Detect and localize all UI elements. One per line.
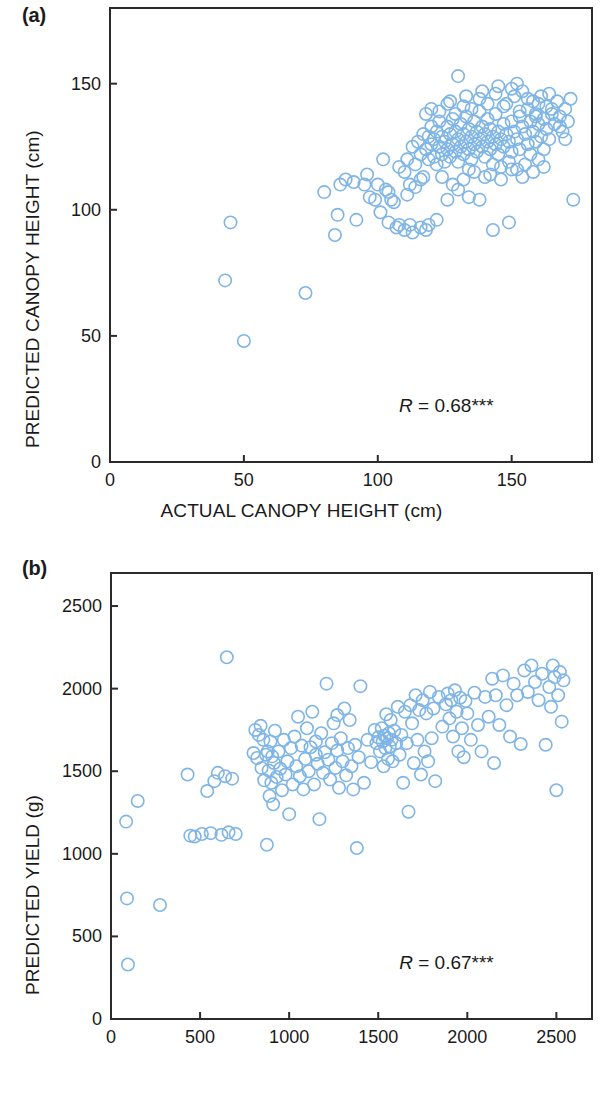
scatter-point [230, 828, 242, 840]
scatter-point [393, 749, 405, 761]
scatter-point [331, 709, 343, 721]
scatter-point [411, 734, 423, 746]
scatter-point [545, 701, 557, 713]
scatter-point [429, 775, 441, 787]
scatter-point [354, 680, 366, 692]
scatter-point [329, 229, 341, 241]
scatter-point [556, 715, 568, 727]
panel-a-y-axis-title: PREDICTED CANOPY HEIGHT (cm) [22, 130, 44, 448]
scatter-point [219, 770, 231, 782]
y-tick-label: 500 [72, 926, 102, 947]
scatter-point [436, 171, 448, 183]
scatter-point [263, 790, 275, 802]
scatter-point [559, 133, 571, 145]
scatter-point [487, 224, 499, 236]
scatter-point [482, 711, 494, 723]
scatter-series [120, 651, 570, 971]
panel-a-correlation-annotation: R = 0.68*** [399, 395, 494, 417]
scatter-point [344, 714, 356, 726]
scatter-point [472, 719, 484, 731]
scatter-point [441, 193, 453, 205]
scatter-point [212, 767, 224, 779]
scatter-point [444, 95, 456, 107]
scatter-point [365, 756, 377, 768]
scatter-point [539, 739, 551, 751]
scatter-point [352, 751, 364, 763]
scatter-point [465, 734, 477, 746]
x-tick-label: 500 [185, 1027, 215, 1048]
x-tick-label: 0 [106, 1027, 116, 1048]
scatter-point [331, 209, 343, 221]
scatter-point [299, 287, 311, 299]
scatter-point [340, 769, 352, 781]
y-tick-label: 0 [92, 1009, 102, 1030]
scatter-point [425, 103, 437, 115]
scatter-point [306, 706, 318, 718]
scatter-point [385, 193, 397, 205]
scatter-point [456, 722, 468, 734]
x-tick-label: 100 [363, 470, 393, 491]
scatter-point [493, 719, 505, 731]
scatter-point [120, 815, 132, 827]
scatter-point [497, 100, 509, 112]
scatter-point [567, 193, 579, 205]
correlation-symbol: R [399, 952, 413, 973]
scatter-point [317, 767, 329, 779]
scatter-point [497, 669, 509, 681]
scatter-point [554, 666, 566, 678]
panel-b-correlation-annotation: R = 0.67*** [399, 952, 494, 974]
scatter-point [503, 216, 515, 228]
scatter-point [408, 757, 420, 769]
panel-a: (a) ACTUAL CANOPY HEIGHT (cm) PREDICTED … [0, 0, 603, 547]
scatter-point [425, 732, 437, 744]
scatter-point [397, 777, 409, 789]
scatter-point [350, 214, 362, 226]
scatter-point [536, 668, 548, 680]
scatter-point [415, 768, 427, 780]
y-tick-label: 2500 [62, 596, 102, 617]
scatter-point [255, 762, 267, 774]
scatter-point [552, 689, 564, 701]
scatter-point [334, 178, 346, 190]
scatter-point [452, 70, 464, 82]
plot-frame [110, 8, 592, 462]
scatter-point [261, 839, 273, 851]
scatter-point [224, 216, 236, 228]
scatter-point [333, 782, 345, 794]
scatter-point [452, 183, 464, 195]
scatter-point [308, 778, 320, 790]
scatter-point [402, 805, 414, 817]
scatter-point [358, 777, 370, 789]
y-tick-label: 100 [71, 199, 101, 220]
scatter-point [406, 141, 418, 153]
scatter-point [543, 88, 555, 100]
scatter-point [181, 768, 193, 780]
scatter-point [550, 784, 562, 796]
scatter-point [318, 186, 330, 198]
scatter-point [122, 958, 134, 970]
scatter-point [377, 153, 389, 165]
scatter-point [351, 842, 363, 854]
x-tick-label: 2000 [447, 1027, 487, 1048]
scatter-point [436, 720, 448, 732]
scatter-point [267, 798, 279, 810]
scatter-point [313, 813, 325, 825]
scatter-point [564, 93, 576, 105]
scatter-point [492, 80, 504, 92]
scatter-point [507, 677, 519, 689]
x-tick-label: 50 [234, 470, 254, 491]
x-tick-label: 2500 [536, 1027, 576, 1048]
scatter-point [221, 651, 233, 663]
scatter-point [339, 173, 351, 185]
x-tick-label: 150 [497, 470, 527, 491]
scatter-point [301, 722, 313, 734]
scatter-point [283, 808, 295, 820]
scatter-point [388, 196, 400, 208]
panel-b-plot [0, 547, 603, 1094]
y-tick-label: 2000 [62, 678, 102, 699]
scatter-point [488, 757, 500, 769]
scatter-point [154, 899, 166, 911]
scatter-point [420, 108, 432, 120]
x-tick-label: 1500 [358, 1027, 398, 1048]
panel-b-y-axis-title: PREDICTED YIELD (g) [22, 795, 44, 995]
